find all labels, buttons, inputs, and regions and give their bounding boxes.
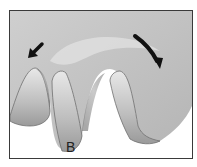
- label-b: B: [66, 140, 75, 154]
- figure-frame: [9, 10, 193, 159]
- tooth-illustration: [10, 11, 192, 158]
